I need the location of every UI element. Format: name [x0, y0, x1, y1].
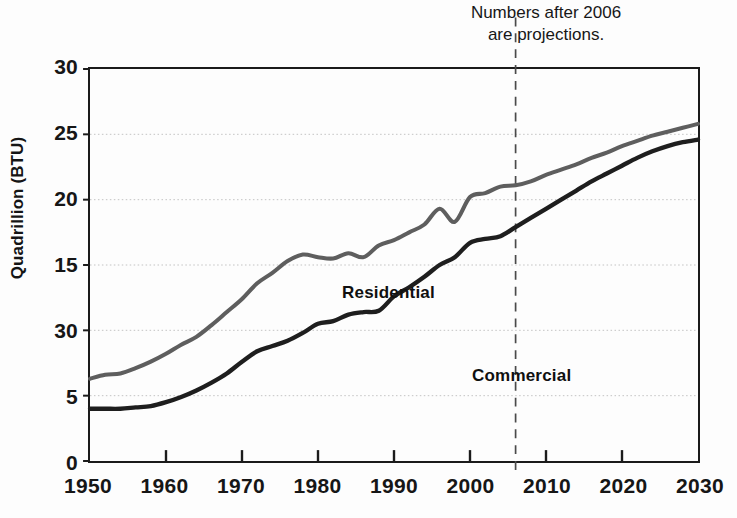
- data-series: [90, 69, 698, 461]
- x-tick-label: 2020: [600, 474, 648, 498]
- x-tick-label: 1980: [294, 474, 342, 498]
- x-tick-label: 2030: [676, 474, 724, 498]
- x-tick-label: 1950: [64, 474, 112, 498]
- plot-area: Residential Commercial: [88, 67, 700, 463]
- y-axis-tick-labels: 302520153050: [0, 67, 78, 463]
- x-tick-label: 1990: [370, 474, 418, 498]
- x-tick-label: 1970: [217, 474, 265, 498]
- y-tick-label: 30: [54, 319, 78, 343]
- series-line-commercial: [90, 140, 698, 409]
- projection-note: Numbers after 2006 are projections.: [441, 2, 651, 47]
- y-tick-label: 25: [54, 121, 78, 145]
- y-tick-label: 0: [66, 451, 78, 475]
- y-tick-label: 20: [54, 187, 78, 211]
- x-axis-tick-labels: 195019601970198019902000201020202030: [88, 474, 700, 504]
- series-label-residential: Residential: [342, 283, 435, 303]
- series-line-residential: [90, 124, 698, 379]
- x-tick-label: 2010: [523, 474, 571, 498]
- y-tick-label: 15: [54, 253, 78, 277]
- y-tick-label: 5: [66, 385, 78, 409]
- series-label-commercial: Commercial: [472, 366, 571, 386]
- y-tick-label: 30: [54, 55, 78, 79]
- x-tick-label: 2000: [447, 474, 495, 498]
- x-tick-label: 1960: [141, 474, 189, 498]
- energy-consumption-chart: Numbers after 2006 are projections. Quad…: [0, 0, 737, 518]
